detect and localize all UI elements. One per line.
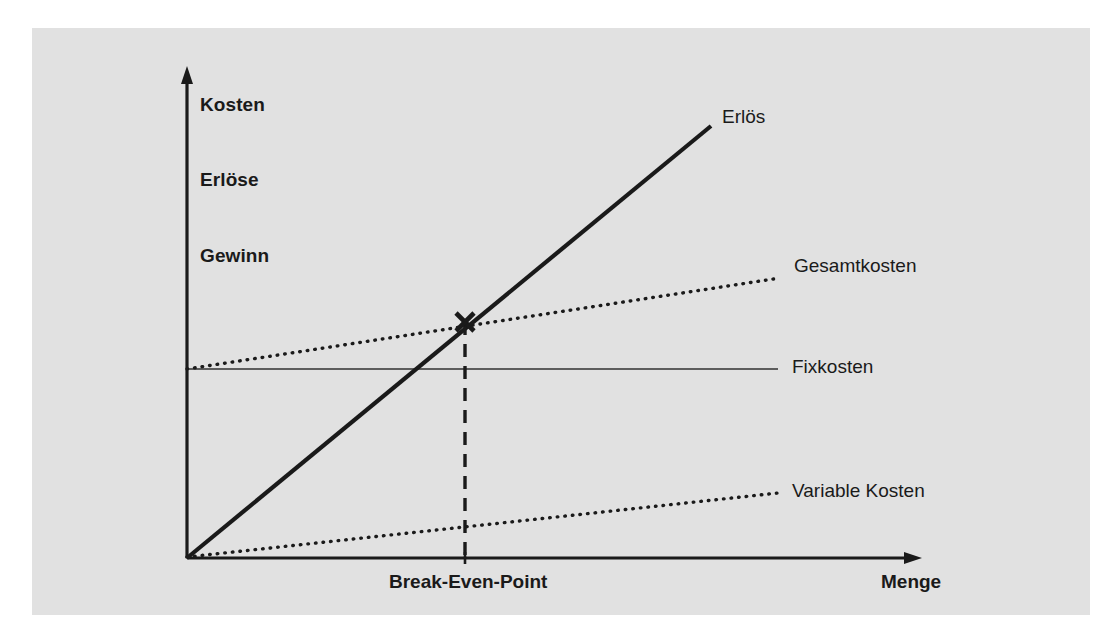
y-axis bbox=[181, 66, 193, 558]
break-even-point-label: Break-Even-Point bbox=[389, 569, 547, 594]
break-even-chart: Kosten Erlöse Gewinn Erlös Gesamtkosten … bbox=[0, 0, 1120, 643]
series-line-gesamtkosten bbox=[187, 278, 780, 369]
chart-plot-area bbox=[0, 0, 1120, 643]
x-axis bbox=[187, 552, 922, 564]
series-label-variable-kosten: Variable Kosten bbox=[792, 478, 925, 503]
series-line-variable-kosten bbox=[187, 493, 778, 557]
y-axis-label-line-3: Gewinn bbox=[200, 243, 269, 268]
y-axis-label: Kosten Erlöse Gewinn bbox=[200, 42, 269, 318]
series-label-gesamtkosten: Gesamtkosten bbox=[794, 253, 917, 278]
series-label-fixkosten: Fixkosten bbox=[792, 354, 873, 379]
y-axis-arrow-icon bbox=[181, 66, 193, 84]
x-axis-arrow-icon bbox=[904, 552, 922, 564]
series-label-erloes: Erlös bbox=[722, 104, 765, 129]
y-axis-label-line-1: Kosten bbox=[200, 92, 269, 117]
y-axis-label-line-2: Erlöse bbox=[200, 167, 269, 192]
x-axis-label: Menge bbox=[881, 569, 941, 594]
